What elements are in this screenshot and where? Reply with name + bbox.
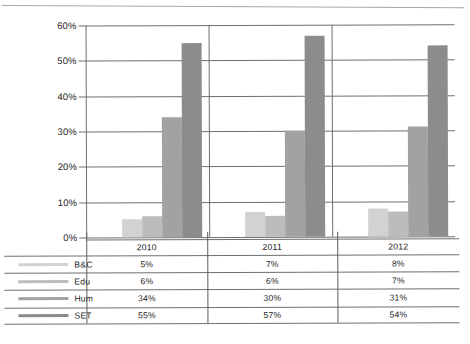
table-header-2010: 2010 xyxy=(86,242,207,252)
legend-swatch-hum xyxy=(18,297,68,300)
gridlines-group xyxy=(86,24,455,25)
gridline-10 xyxy=(86,201,455,203)
table-rule xyxy=(4,306,459,308)
table-cell-bc-2011: 7% xyxy=(207,258,337,268)
table-cell-hum-2012: 31% xyxy=(337,292,459,302)
legend-swatch-bc xyxy=(18,263,68,266)
gridline-60 xyxy=(86,24,455,26)
bar-chart-figure: 0%10%20%30%40%50%60% 201020112012B&C5%7%… xyxy=(0,0,470,344)
table-header-2012: 2012 xyxy=(337,241,459,251)
bar-set-2011 xyxy=(305,35,326,236)
y-axis-label: 30% xyxy=(58,126,77,137)
y-tickmark xyxy=(79,202,86,203)
y-tickmark xyxy=(79,96,86,97)
plot-area: 0%10%20%30%40%50%60% xyxy=(86,24,456,237)
table-cell-edu-2011: 6% xyxy=(207,275,337,285)
table-cell-bc-2010: 5% xyxy=(86,259,207,269)
bar-edu-2012 xyxy=(388,212,408,237)
table-cell-edu-2012: 7% xyxy=(337,275,459,285)
y-axis-label: 50% xyxy=(57,55,76,66)
bar-edu-2010 xyxy=(142,216,162,237)
y-tickmark xyxy=(79,131,86,132)
bar-bc-2012 xyxy=(368,208,388,236)
bar-set-2012 xyxy=(428,46,449,237)
gridline-30 xyxy=(86,130,455,132)
table-cell-hum-2011: 30% xyxy=(207,293,337,303)
table-cell-set-2012: 54% xyxy=(337,309,459,319)
table-cell-set-2010: 55% xyxy=(86,310,207,320)
y-tickmark xyxy=(79,25,86,26)
bar-hum-2011 xyxy=(285,131,305,237)
gridline-40 xyxy=(86,95,455,97)
table-rule xyxy=(4,271,459,273)
gridline-20 xyxy=(86,166,455,168)
bar-edu-2011 xyxy=(265,216,285,237)
table-cell-bc-2012: 8% xyxy=(337,258,459,268)
table-rule xyxy=(4,254,459,256)
y-axis-label: 40% xyxy=(57,91,76,102)
y-tickmark xyxy=(79,61,86,62)
legend-swatch-edu xyxy=(18,280,68,283)
table-cell-edu-2010: 6% xyxy=(86,276,207,286)
bar-set-2010 xyxy=(182,43,203,237)
legend-swatch-set xyxy=(18,314,68,317)
table-rule xyxy=(4,322,459,324)
y-tickmark xyxy=(79,167,86,168)
bar-hum-2012 xyxy=(408,127,428,237)
table-header-2011: 2011 xyxy=(207,242,337,252)
bar-hum-2010 xyxy=(162,117,182,237)
table-rule xyxy=(4,288,459,290)
y-axis-label: 60% xyxy=(57,20,76,31)
table-cell-set-2011: 57% xyxy=(207,310,337,320)
table-rule xyxy=(86,238,459,240)
bar-bc-2010 xyxy=(122,220,142,238)
table-cell-hum-2010: 34% xyxy=(86,293,207,303)
y-axis-label: 10% xyxy=(58,197,77,208)
gridline-50 xyxy=(86,60,455,62)
y-axis-label: 20% xyxy=(58,161,77,172)
data-table: 201020112012B&C5%7%8%Edu6%6%7%Hum34%30%3… xyxy=(4,237,459,324)
bar-bc-2011 xyxy=(245,212,265,237)
